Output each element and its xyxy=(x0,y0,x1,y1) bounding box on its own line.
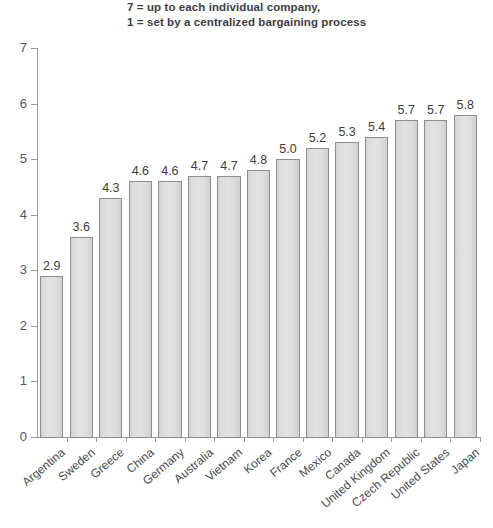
y-axis-tick-label-text: 4 xyxy=(3,208,27,221)
bar[interactable] xyxy=(158,181,181,438)
x-axis-tick xyxy=(155,437,156,442)
y-axis-tick-label: 3 xyxy=(0,263,27,276)
x-axis-tick xyxy=(480,437,481,442)
bar[interactable] xyxy=(276,159,299,438)
bar-value-label: 3.6 xyxy=(64,221,99,234)
y-axis-tick-label: 5 xyxy=(0,152,27,165)
x-axis-category-label-text: France xyxy=(267,446,303,479)
y-axis-tick xyxy=(31,437,37,438)
x-axis-tick xyxy=(362,437,363,442)
bar-value-label: 5.8 xyxy=(448,99,483,112)
bar-value-label: 4.3 xyxy=(93,182,128,195)
y-axis-tick-label-text: 7 xyxy=(3,41,27,54)
y-axis-tick-label: 6 xyxy=(0,97,27,110)
bar[interactable] xyxy=(306,148,329,438)
y-axis-tick-label: 0 xyxy=(0,430,27,443)
y-axis-tick-label: 7 xyxy=(0,41,27,54)
x-axis-tick xyxy=(450,437,451,442)
bar[interactable] xyxy=(454,115,477,438)
y-axis-tick-label-text: 6 xyxy=(3,97,27,110)
y-axis-tick xyxy=(31,326,37,327)
y-axis-tick-label-text: 2 xyxy=(3,319,27,332)
x-axis-tick xyxy=(185,437,186,442)
x-axis-tick xyxy=(244,437,245,442)
y-axis-tick xyxy=(31,215,37,216)
x-axis-tick xyxy=(214,437,215,442)
bar[interactable] xyxy=(424,120,447,438)
bar[interactable] xyxy=(70,237,93,438)
x-axis-tick xyxy=(303,437,304,442)
x-axis-category-label-text: Argentina xyxy=(20,446,67,488)
bar-value-label: 4.8 xyxy=(241,154,276,167)
bar[interactable] xyxy=(129,181,152,438)
bar-chart-plot-area: 01234567 2.93.64.34.64.64.74.74.85.05.25… xyxy=(0,0,493,528)
bar-value-label: 5.4 xyxy=(359,121,394,134)
bar[interactable] xyxy=(188,176,211,438)
y-axis-tick-label-text: 3 xyxy=(3,263,27,276)
y-axis-tick xyxy=(31,381,37,382)
x-axis-category-label-text: Japan xyxy=(448,446,481,476)
x-axis-tick xyxy=(67,437,68,442)
bar[interactable] xyxy=(335,142,358,438)
bar-value-label: 5.0 xyxy=(270,143,305,156)
bar[interactable] xyxy=(395,120,418,438)
x-axis-tick xyxy=(391,437,392,442)
bar-value-label: 2.9 xyxy=(34,260,69,273)
x-axis-tick xyxy=(273,437,274,442)
x-axis-tick xyxy=(96,437,97,442)
y-axis-tick xyxy=(31,159,37,160)
y-axis-tick-label: 2 xyxy=(0,319,27,332)
x-axis-tick xyxy=(126,437,127,442)
bar[interactable] xyxy=(365,137,388,438)
y-axis-tick-label-text: 0 xyxy=(3,430,27,443)
y-axis-tick-label-text: 1 xyxy=(3,374,27,387)
bar[interactable] xyxy=(40,276,63,438)
y-axis-tick xyxy=(31,104,37,105)
bar[interactable] xyxy=(217,176,240,438)
y-axis-tick-label: 4 xyxy=(0,208,27,221)
y-axis-tick-label: 1 xyxy=(0,374,27,387)
y-axis-line xyxy=(37,48,38,437)
bar[interactable] xyxy=(99,198,122,438)
x-axis-tick xyxy=(332,437,333,442)
bar[interactable] xyxy=(247,170,270,438)
y-axis-tick-label-text: 5 xyxy=(3,152,27,165)
x-axis-tick xyxy=(421,437,422,442)
y-axis-tick xyxy=(31,48,37,49)
